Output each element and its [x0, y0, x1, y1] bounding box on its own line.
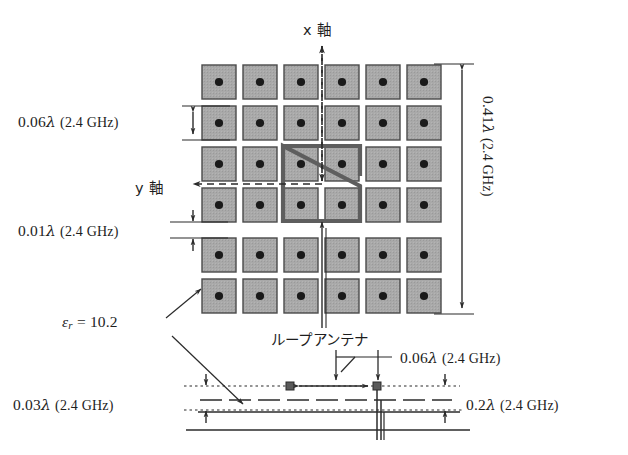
lambda-symbol: λ — [41, 396, 51, 414]
patch-cell — [284, 279, 318, 313]
dim-ground-spacing-value: 0.2 — [466, 396, 486, 413]
patch-cell — [366, 188, 400, 222]
patch-cell — [325, 279, 359, 313]
epsilon-subscript: r — [68, 319, 72, 331]
patch-cell — [243, 147, 277, 181]
permittivity-value: = 10.2 — [77, 313, 118, 330]
lambda-symbol: λ — [46, 222, 56, 240]
dim-patch-width-freq: (2.4 GHz) — [60, 115, 119, 130]
patch-cell — [284, 65, 318, 99]
patch-cell — [407, 147, 441, 181]
patch-cell — [284, 147, 318, 181]
patch-cell — [407, 106, 441, 140]
dim-feed-offset-value: 0.06 — [400, 349, 428, 366]
patch-cell — [325, 238, 359, 272]
dim-array-size-value: 0.41 — [480, 96, 497, 124]
lambda-symbol: λ — [486, 396, 496, 414]
dim-patch-width-label: 0.06λ (2.4 GHz) — [18, 113, 119, 131]
patch-cell — [407, 188, 441, 222]
lambda-symbol: λ — [428, 349, 438, 367]
patch-cell — [407, 279, 441, 313]
patch-cell — [202, 238, 236, 272]
dim-gap-freq: (2.4 GHz) — [60, 224, 119, 239]
patch-cell — [243, 188, 277, 222]
lambda-symbol: λ — [46, 113, 56, 131]
patch-cell — [366, 238, 400, 272]
patch-cell — [202, 106, 236, 140]
patch-cell — [243, 65, 277, 99]
patch-cell — [202, 65, 236, 99]
dim-ground-spacing-freq: (2.4 GHz) — [500, 398, 559, 413]
dim-substrate-height-label: 0.03λ (2.4 GHz) — [13, 396, 114, 414]
patch-cell — [202, 279, 236, 313]
patch-cell — [366, 65, 400, 99]
patch-cell — [243, 238, 277, 272]
patch-cell — [325, 106, 359, 140]
patch-cell — [366, 279, 400, 313]
dim-feed-offset-freq: (2.4 GHz) — [442, 351, 501, 366]
dim-array-size-freq: (2.4 GHz) — [480, 138, 495, 197]
patch-cell — [407, 238, 441, 272]
patch-cell — [407, 65, 441, 99]
patch-cell — [284, 106, 318, 140]
patch-cell — [243, 106, 277, 140]
patch-cell — [284, 188, 318, 222]
permittivity-label: εr = 10.2 — [62, 313, 118, 331]
patch-cell — [243, 279, 277, 313]
patch-cell — [366, 106, 400, 140]
dim-gap-value: 0.01 — [18, 222, 46, 239]
patch-cell — [284, 238, 318, 272]
dim-substrate-height-value: 0.03 — [13, 396, 41, 413]
patch-cell — [325, 65, 359, 99]
patch-cell — [202, 188, 236, 222]
dim-gap-label: 0.01λ (2.4 GHz) — [18, 222, 119, 240]
figure-root: x 軸 y 軸 0.06λ (2.4 GHz) 0.01λ (2.4 GHz) … — [0, 0, 628, 455]
loop-antenna-label: ループアンテナ — [271, 328, 368, 349]
dim-substrate-height-freq: (2.4 GHz) — [55, 398, 114, 413]
dim-array-size-label: 0.41λ (2.4 GHz) — [479, 96, 497, 197]
dim-patch-width-value: 0.06 — [18, 113, 46, 130]
patch-cell — [325, 188, 359, 222]
patch-cell — [202, 147, 236, 181]
x-axis-label: x 軸 — [303, 18, 331, 39]
dim-ground-spacing-label: 0.2λ (2.4 GHz) — [466, 396, 559, 414]
dim-feed-offset-label: 0.06λ (2.4 GHz) — [400, 349, 501, 367]
y-axis-label: y 軸 — [135, 176, 163, 197]
patch-cell — [366, 147, 400, 181]
lambda-symbol: λ — [479, 124, 497, 134]
